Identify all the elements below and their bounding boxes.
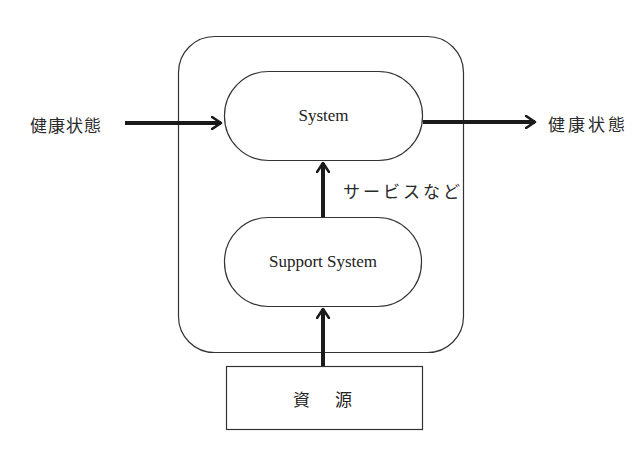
resource-node: 資 源	[226, 366, 423, 430]
support-system-node: Support System	[224, 217, 422, 307]
resource-label: 資 源	[293, 386, 356, 411]
output-health-state-label: 健康状態	[548, 111, 628, 136]
input-health-state-label: 健康状態	[30, 112, 102, 137]
support-system-label: Support System	[269, 252, 377, 272]
system-label: System	[298, 106, 348, 126]
service-label: サービスなど	[343, 178, 463, 203]
system-node: System	[224, 71, 423, 161]
